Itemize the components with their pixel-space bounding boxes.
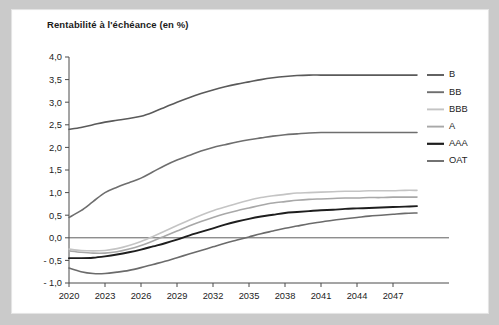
y-tick-label: 0,5 <box>49 211 62 221</box>
series-line-bb <box>69 132 417 217</box>
x-tick-label: 2020 <box>59 291 80 301</box>
x-tick-label: 2029 <box>167 291 188 301</box>
legend-label-b: B <box>449 69 455 79</box>
legend-label-a: A <box>449 121 456 131</box>
series-line-oat <box>69 213 417 274</box>
x-tick-label: 2032 <box>203 291 224 301</box>
x-tick-label: 2023 <box>95 291 116 301</box>
y-tick-label: 1,5 <box>49 165 62 175</box>
x-tick-label: 2041 <box>311 291 332 301</box>
series-line-b <box>69 75 417 129</box>
line-chart-svg: 4,03,53,02,52,01,51,00,50,0- 0,5- 1,0202… <box>12 10 489 313</box>
x-tick-label: 2035 <box>239 291 260 301</box>
legend-label-aaa: AAA <box>449 138 468 148</box>
series-line-a <box>69 197 417 253</box>
y-tick-label: 4,0 <box>49 52 62 62</box>
legend-label-bbb: BBB <box>449 104 468 114</box>
x-tick-label: 2044 <box>347 291 368 301</box>
chart-plot-area: 4,03,53,02,52,01,51,00,50,0- 0,5- 1,0202… <box>12 10 488 313</box>
x-tick-label: 2047 <box>383 291 404 301</box>
chart-card: Rentabilité à l'échéance (en %) 4,03,53,… <box>11 9 489 314</box>
x-tick-label: 2038 <box>275 291 296 301</box>
y-tick-label: 2,0 <box>49 143 62 153</box>
legend-label-bb: BB <box>449 87 461 97</box>
screenshot-frame: Rentabilité à l'échéance (en %) 4,03,53,… <box>0 0 499 325</box>
y-tick-label: - 0,5 <box>43 256 62 266</box>
y-tick-label: 1,0 <box>49 188 62 198</box>
y-tick-label: 2,5 <box>49 120 62 130</box>
y-tick-label: - 1,0 <box>43 278 62 288</box>
y-tick-label: 0,0 <box>49 233 62 243</box>
legend-label-oat: OAT <box>449 155 468 165</box>
x-tick-label: 2026 <box>131 291 152 301</box>
y-tick-label: 3,0 <box>49 98 62 108</box>
y-tick-label: 3,5 <box>49 75 62 85</box>
